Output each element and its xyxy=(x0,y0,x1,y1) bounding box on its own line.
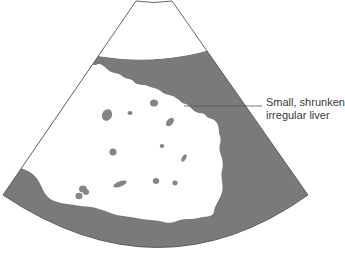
nodule xyxy=(83,189,89,195)
nodule xyxy=(150,100,158,107)
nodule xyxy=(128,111,133,115)
nodule xyxy=(110,149,117,156)
nodule xyxy=(160,144,165,148)
nodule xyxy=(76,193,83,199)
nodule xyxy=(172,181,177,186)
near-field-region xyxy=(0,0,342,59)
annotation-label-line1: Small, shrunken xyxy=(266,96,345,109)
nodule xyxy=(153,178,159,184)
annotation-label-line2: irregular liver xyxy=(266,109,330,122)
